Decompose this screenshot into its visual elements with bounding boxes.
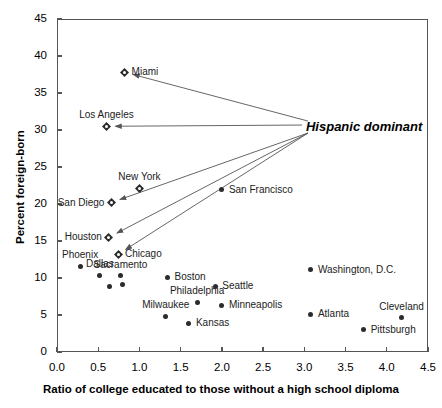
- data-point-diamond: [102, 122, 111, 131]
- point-label: Philadelphia: [170, 286, 225, 296]
- x-tick-mark: [56, 347, 57, 352]
- data-point: [107, 284, 112, 289]
- data-point: [165, 275, 170, 280]
- annotation-hispanic-dominant: Hispanic dominant: [306, 119, 422, 134]
- x-tick-label: 3.0: [284, 362, 324, 374]
- data-point-diamond: [114, 250, 123, 259]
- x-tick-label: 0.5: [78, 362, 118, 374]
- x-tick-mark: [180, 347, 181, 352]
- x-tick-label: 2.0: [202, 362, 242, 374]
- point-label: New York: [118, 172, 160, 182]
- y-tick-label: 10: [13, 272, 47, 284]
- point-label: Atlanta: [318, 309, 349, 319]
- point-label: Seattle: [222, 281, 253, 291]
- y-tick-mark: [57, 18, 62, 19]
- y-tick-mark: [57, 166, 62, 167]
- y-tick-mark: [57, 92, 62, 93]
- y-axis-title: Percent foreign-born: [14, 130, 26, 244]
- data-point: [97, 273, 102, 278]
- point-label: Sacramento: [94, 260, 148, 270]
- data-point: [78, 264, 83, 269]
- x-tick-label: 3.5: [326, 362, 366, 374]
- y-tick-label: 35: [13, 87, 47, 99]
- data-point-diamond: [104, 233, 113, 242]
- x-tick-label: 4.0: [367, 362, 407, 374]
- data-point-diamond: [120, 68, 129, 77]
- x-tick-mark: [139, 347, 140, 352]
- point-label: San Diego: [58, 198, 105, 208]
- data-point: [195, 300, 200, 305]
- point-label: Boston: [174, 272, 205, 282]
- x-axis-title: Ratio of college educated to those witho…: [0, 383, 442, 395]
- x-tick-label: 1.0: [119, 362, 159, 374]
- point-label: Kansas: [196, 318, 229, 328]
- point-label: Milwaukee: [142, 300, 189, 310]
- x-tick-label: 4.5: [408, 362, 442, 374]
- x-tick-label: 0.0: [37, 362, 77, 374]
- x-tick-mark: [304, 347, 305, 352]
- x-tick-mark: [345, 347, 346, 352]
- point-label: San Francisco: [229, 185, 293, 195]
- y-tick-mark: [57, 240, 62, 241]
- scatter-chart: 051015202530354045 0.00.51.01.52.02.53.0…: [0, 0, 442, 408]
- x-tick-label: 1.5: [161, 362, 201, 374]
- y-tick-label: 5: [13, 309, 47, 321]
- y-tick-mark: [57, 351, 62, 352]
- point-label: Pittsburgh: [371, 325, 416, 335]
- point-label: Cleveland: [379, 302, 423, 312]
- point-label: Houston: [65, 232, 102, 242]
- x-tick-label: 2.5: [243, 362, 283, 374]
- y-tick-mark: [57, 129, 62, 130]
- y-tick-mark: [57, 55, 62, 56]
- x-tick-mark: [427, 347, 428, 352]
- x-tick-mark: [386, 347, 387, 352]
- data-point-diamond: [107, 198, 116, 207]
- data-point-diamond: [135, 184, 144, 193]
- point-label: Washington, D.C.: [318, 265, 396, 275]
- x-tick-mark: [221, 347, 222, 352]
- point-label: Miami: [132, 67, 159, 77]
- x-tick-mark: [98, 347, 99, 352]
- point-label: Minneapolis: [229, 300, 282, 310]
- y-tick-mark: [57, 314, 62, 315]
- y-tick-mark: [57, 277, 62, 278]
- y-tick-label: 40: [13, 50, 47, 62]
- y-tick-label: 45: [13, 13, 47, 25]
- y-tick-label: 0: [13, 346, 47, 358]
- x-tick-mark: [262, 347, 263, 352]
- point-label: Los Angeles: [79, 110, 134, 120]
